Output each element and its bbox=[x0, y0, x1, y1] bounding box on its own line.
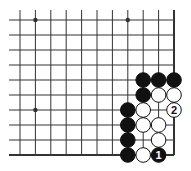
star-point bbox=[33, 108, 37, 112]
white-stone bbox=[151, 88, 166, 103]
white-stone bbox=[151, 133, 166, 148]
star-point bbox=[126, 18, 130, 22]
white-stone bbox=[136, 148, 151, 163]
black-stone bbox=[151, 73, 166, 88]
black-stone bbox=[136, 88, 151, 103]
black-stone bbox=[121, 148, 136, 163]
black-stone bbox=[121, 118, 136, 133]
white-stone bbox=[151, 118, 166, 133]
white-stone bbox=[167, 88, 182, 103]
black-stone: 1 bbox=[151, 148, 166, 163]
white-stone: 2 bbox=[167, 103, 182, 118]
black-stone bbox=[121, 103, 136, 118]
white-stone bbox=[136, 103, 151, 118]
black-stone bbox=[167, 73, 182, 88]
move-number-label: 2 bbox=[171, 104, 177, 116]
move-number-label: 1 bbox=[156, 149, 162, 161]
star-point bbox=[33, 18, 37, 22]
black-stone bbox=[121, 133, 136, 148]
black-stone bbox=[136, 73, 151, 88]
stones: 21 bbox=[121, 73, 182, 163]
go-board: 21 bbox=[0, 0, 191, 171]
white-stone bbox=[136, 118, 151, 133]
